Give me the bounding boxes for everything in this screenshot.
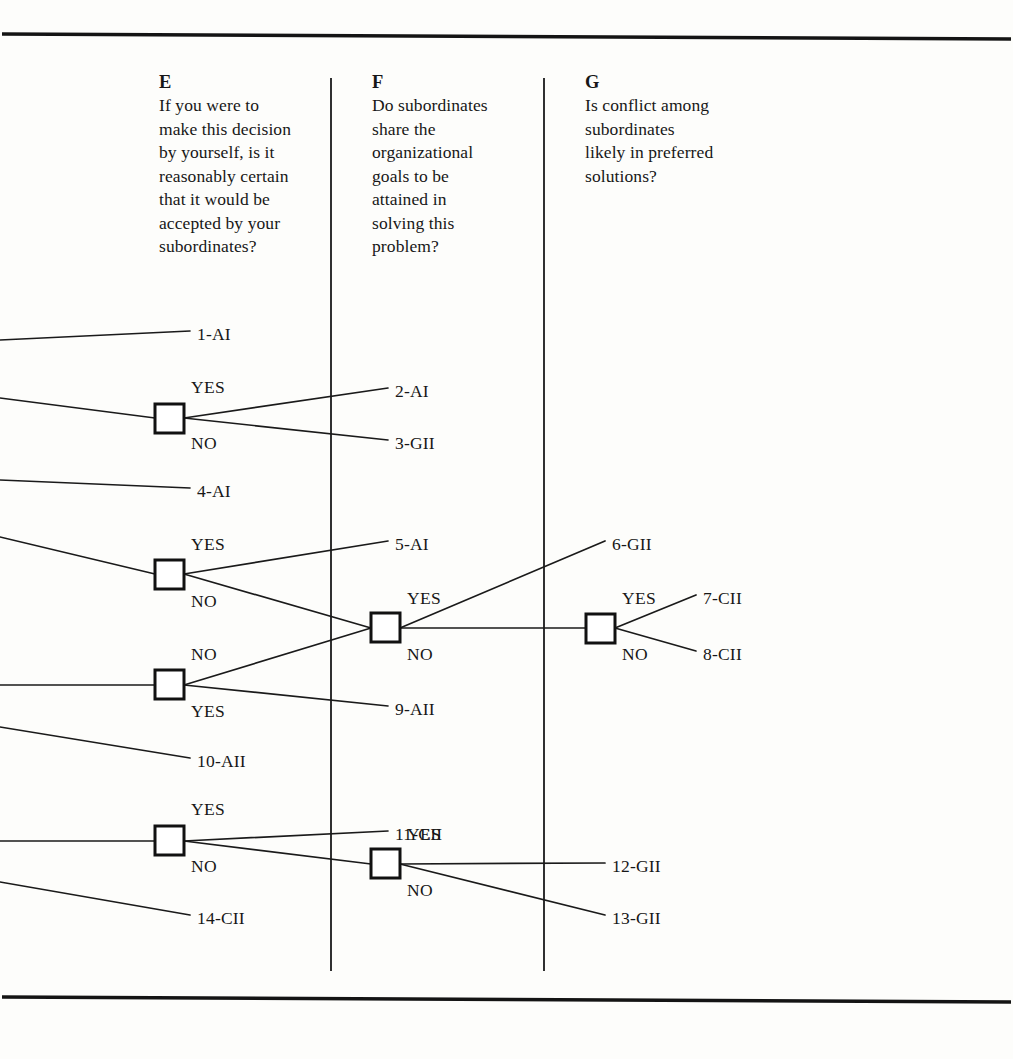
column-heading-E: E If you were to make this decision by y… — [159, 72, 334, 259]
branch-label-f1-no: NO — [407, 645, 433, 664]
edge-F2-yes-to-12gii — [400, 863, 605, 864]
outcome-label-8-cii: 8-CII — [703, 645, 742, 664]
branch-label-e2-yes: YES — [191, 535, 225, 554]
outcome-label-1-ai: 1-AI — [197, 325, 231, 344]
top-rule — [2, 34, 1011, 39]
edge-in-to-E2 — [0, 537, 155, 574]
decision-node-E4[interactable] — [155, 826, 184, 855]
outcome-label-4-ai: 4-AI — [197, 482, 231, 501]
branch-label-g1-yes: YES — [622, 589, 656, 608]
branch-label-g1-no: NO — [622, 645, 648, 664]
outcome-label-7-cii: 7-CII — [703, 589, 742, 608]
edge-F1-yes-to-6gii — [400, 541, 605, 628]
decision-node-F1[interactable] — [371, 613, 400, 642]
column-heading-G: G Is conflict among subordinates likely … — [585, 72, 785, 188]
edge-in-to-14cii — [0, 882, 190, 915]
branch-label-f2-no: NO — [407, 881, 433, 900]
edge-in-to-4ai — [0, 480, 190, 488]
branch-label-e3-yes: YES — [191, 702, 225, 721]
figure-canvas: E If you were to make this decision by y… — [0, 0, 1013, 1059]
outcome-label-12-gii: 12-GII — [612, 857, 661, 876]
branch-label-e4-yes: YES — [191, 800, 225, 819]
column-question-E: If you were to make this decision by you… — [159, 94, 334, 259]
outcome-label-6-gii: 6-GII — [612, 535, 652, 554]
edge-in-to-10aii — [0, 727, 190, 758]
outcome-label-10-aii: 10-AII — [197, 752, 246, 771]
outcome-label-11-cii: 11-CII — [395, 825, 442, 844]
column-letter-E: E — [159, 72, 334, 93]
decision-node-E1[interactable] — [155, 404, 184, 433]
decision-node-G1[interactable] — [586, 614, 615, 643]
outcome-label-14-cii: 14-CII — [197, 909, 245, 928]
column-question-F: Do subordinates share the organizational… — [372, 94, 547, 259]
outcome-label-2-ai: 2-AI — [395, 382, 429, 401]
outcome-label-9-aii: 9-AII — [395, 700, 435, 719]
outcome-label-13-gii: 13-GII — [612, 909, 661, 928]
outcome-label-3-gii: 3-GII — [395, 434, 435, 453]
branch-label-e4-no: NO — [191, 857, 217, 876]
branch-label-e1-yes: YES — [191, 378, 225, 397]
outcome-label-5-ai: 5-AI — [395, 535, 429, 554]
decision-node-E2[interactable] — [155, 560, 184, 589]
branch-label-f1-yes: YES — [407, 589, 441, 608]
column-heading-F: F Do subordinates share the organization… — [372, 72, 547, 259]
edge-E4-yes-to-11cii — [184, 831, 388, 841]
column-question-G: Is conflict among subordinates likely in… — [585, 94, 785, 188]
column-letter-G: G — [585, 72, 785, 93]
branch-label-e1-no: NO — [191, 434, 217, 453]
branch-label-e3-no: NO — [191, 645, 217, 664]
edge-in-to-1ai — [0, 331, 190, 340]
decision-node-E3[interactable] — [155, 670, 184, 699]
column-letter-F: F — [372, 72, 547, 93]
bottom-rule — [2, 997, 1011, 1002]
decision-node-F2[interactable] — [371, 849, 400, 878]
edge-in-to-E1 — [0, 398, 155, 418]
branch-label-e2-no: NO — [191, 592, 217, 611]
